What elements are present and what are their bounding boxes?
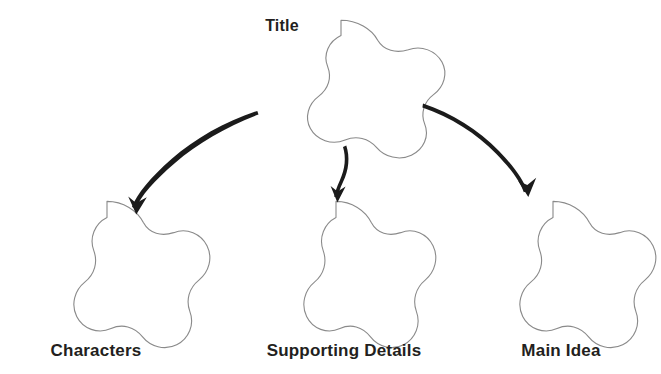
- arrow-title-to-main-idea: [422, 104, 536, 198]
- main-idea-flower: [520, 201, 656, 347]
- main-idea-node-label: Main Idea: [521, 341, 601, 360]
- supporting-details-flower: [304, 201, 436, 347]
- node-characters[interactable]: Characters: [51, 201, 210, 360]
- characters-node-label: Characters: [51, 341, 142, 360]
- title-node-label: Title: [265, 17, 299, 34]
- characters-flower: [74, 201, 210, 347]
- node-main-idea[interactable]: Main Idea: [520, 201, 656, 360]
- graphic-organizer-canvas: Title Characters Supporting Details Main…: [0, 0, 661, 374]
- diagram-surface: Title Characters Supporting Details Main…: [0, 0, 661, 374]
- supporting-details-node-label: Supporting Details: [267, 341, 422, 360]
- arrow-title-to-characters: [128, 111, 258, 215]
- node-supporting-details[interactable]: Supporting Details: [267, 201, 436, 360]
- title-flower: [308, 20, 445, 158]
